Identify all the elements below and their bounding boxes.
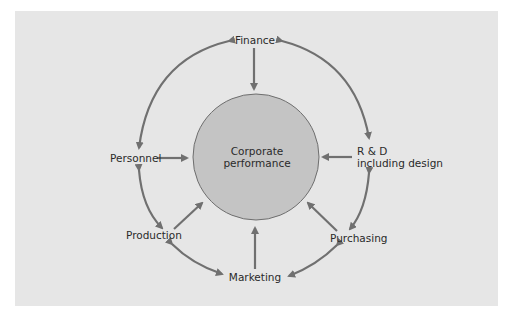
node-production: Production <box>126 229 182 241</box>
node-marketing: Marketing <box>229 271 281 283</box>
arrow-rd-purchasing <box>350 173 369 229</box>
arrow-purchasing-to-center <box>308 203 337 231</box>
arrow-purchasing-marketing <box>289 245 337 276</box>
node-rd-line2: including design <box>357 157 443 169</box>
diagram-canvas: Finance Personnel R & D including design… <box>0 0 511 316</box>
node-purchasing: Purchasing <box>330 232 387 244</box>
arrow-production-to-center <box>174 203 202 229</box>
node-finance: Finance <box>235 34 275 46</box>
node-rd-line1: R & D <box>357 145 387 157</box>
arrow-production-marketing <box>172 244 222 274</box>
node-personnel: Personnel <box>110 152 161 164</box>
center-label-line2: performance <box>223 157 290 169</box>
center-label-line1: Corporate <box>231 145 284 157</box>
arrow-personnel-production <box>139 170 162 228</box>
